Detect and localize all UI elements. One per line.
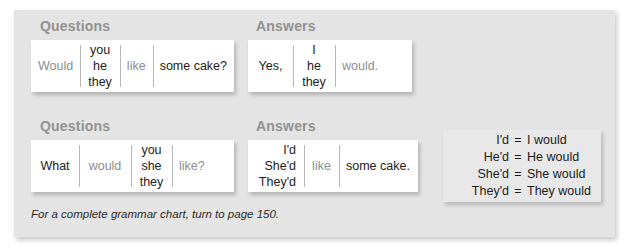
a2-cell-contractions: I'd She'd They'd: [248, 140, 304, 192]
a1-pronoun-he: he: [301, 58, 327, 74]
legend-contraction: He'd: [457, 149, 509, 166]
q1-pronoun-he: he: [88, 58, 112, 74]
legend-equals-icon: =: [509, 132, 527, 149]
legend-row: I'd = I would: [457, 132, 587, 149]
a2-contraction-theyd: They'd: [256, 174, 296, 190]
a2-cell-like: like: [304, 140, 339, 192]
legend-row: They'd = They would: [457, 183, 587, 200]
questions-heading-2: Questions: [40, 118, 110, 134]
q1-cell-would: Would: [31, 40, 80, 92]
q1-cell-like: like: [120, 40, 153, 92]
q1-pronoun-they: they: [88, 74, 112, 90]
answers-heading-1: Answers: [256, 18, 316, 34]
questions-table-2: What would you she they like?: [31, 140, 234, 192]
questions-heading-1: Questions: [40, 18, 110, 34]
legend-equals-icon: =: [509, 166, 527, 183]
grammar-chart-page: Questions Would you he they like some ca…: [0, 0, 629, 249]
grammar-panel: Questions Would you he they like some ca…: [14, 10, 615, 237]
q1-pronoun-you: you: [88, 42, 112, 58]
legend-row: He'd = He would: [457, 149, 587, 166]
answers-heading-2: Answers: [256, 118, 316, 134]
legend-contraction: I'd: [457, 132, 509, 149]
q2-cell-would: would: [79, 140, 131, 192]
a2-contraction-shed: She'd: [256, 158, 296, 174]
legend-equals-icon: =: [509, 183, 527, 200]
a2-contraction-id: I'd: [256, 142, 296, 158]
q1-cell-object: some cake?: [153, 40, 234, 92]
legend-expansion: They would: [527, 183, 591, 200]
q2-cell-like: like?: [172, 140, 234, 192]
a1-pronoun-i: I: [301, 42, 327, 58]
legend-expansion: I would: [527, 132, 587, 149]
a1-cell-would: would.: [335, 40, 412, 92]
q2-pronoun-they: they: [139, 174, 164, 190]
answers-table-1: Yes, I he they would.: [248, 40, 412, 92]
a1-cell-pronouns: I he they: [293, 40, 335, 92]
answers-table-2: I'd She'd They'd like some cake.: [248, 140, 418, 192]
a1-pronoun-they: they: [301, 74, 327, 90]
contractions-legend: I'd = I would He'd = He would She'd = Sh…: [443, 130, 601, 202]
a1-cell-yes: Yes,: [248, 40, 293, 92]
legend-equals-icon: =: [509, 149, 527, 166]
q2-cell-what: What: [31, 140, 79, 192]
legend-row: She'd = She would: [457, 166, 587, 183]
q2-pronoun-you: you: [139, 142, 164, 158]
legend-contraction: They'd: [457, 183, 509, 200]
a2-cell-object: some cake.: [339, 140, 418, 192]
footer-note: For a complete grammar chart, turn to pa…: [31, 208, 279, 220]
questions-table-1: Would you he they like some cake?: [31, 40, 234, 92]
q1-cell-pronouns: you he they: [80, 40, 120, 92]
legend-contraction: She'd: [457, 166, 509, 183]
legend-expansion: He would: [527, 149, 587, 166]
legend-expansion: She would: [527, 166, 587, 183]
q2-pronoun-she: she: [139, 158, 164, 174]
q2-cell-pronouns: you she they: [131, 140, 172, 192]
